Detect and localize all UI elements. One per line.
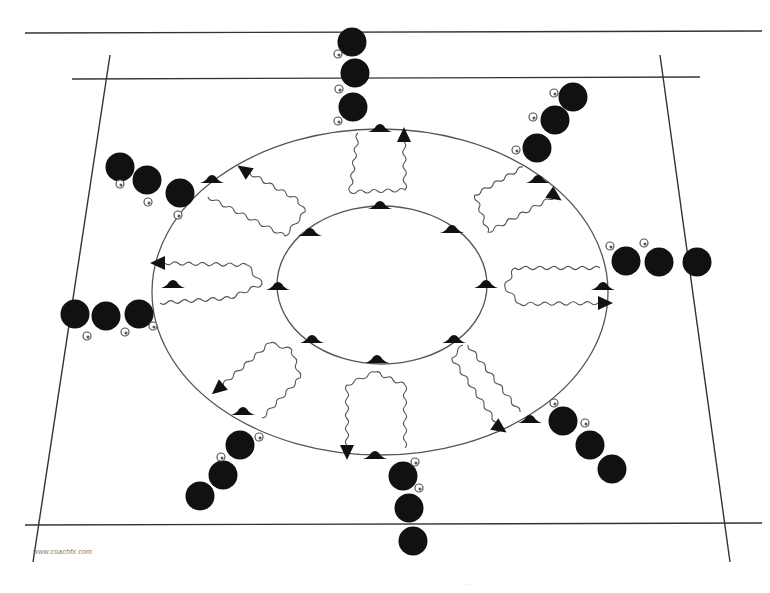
dribble-line [208,170,305,236]
ball-icon [550,399,558,407]
player-group-east [606,239,712,277]
ball-icon [335,85,343,93]
dribble-line [505,266,605,305]
pitch-canvas [0,0,770,593]
ball-icon [550,89,558,97]
top-outer-line [25,31,762,33]
ball-icon [217,453,225,461]
top-inner-line [72,77,700,79]
cone-icon [300,335,324,343]
south-west-path [207,342,300,418]
ball-icon [83,332,91,340]
cones [161,124,615,459]
ball-icon [529,113,537,121]
player-group-north-east [512,83,588,163]
player-icon [133,166,162,195]
right-sideline [660,55,730,562]
ball-icon [116,180,124,188]
player-group-north-west [106,153,195,220]
north-east-path [474,167,565,232]
player-icon [549,407,578,436]
player-icon [395,494,424,523]
bottom-line [25,523,762,525]
player-group-south [389,458,428,556]
ball-icon [512,146,520,154]
ball-icon [334,50,342,58]
ball-icon [144,198,152,206]
player-icon [92,302,121,331]
player-group-west [61,300,158,341]
player-icon [399,527,428,556]
dribble-line [474,167,555,232]
ball-icon [606,242,614,250]
cone-icon [591,282,615,290]
cone-icon [440,225,464,233]
north-path [349,127,411,194]
ball-icon [149,322,157,330]
arrowhead-icon [207,379,227,399]
west-path [150,256,262,304]
north-west-path [208,160,305,236]
player-icon [166,179,195,208]
ball-icon [121,328,129,336]
dribble-line [349,133,407,194]
arrowhead-icon [233,160,253,180]
ball-icon [255,433,263,441]
player-icon [186,482,215,511]
cone-icon [518,415,542,423]
cone-icon [365,355,389,363]
player-group-north [334,28,370,126]
dribble-line [468,345,520,412]
player-group-south-west [186,431,264,511]
arrowhead-icon [598,296,613,310]
footer-mark: ... [465,580,469,586]
player-icon [226,431,255,460]
cone-icon [526,175,550,183]
cone-icon [474,280,498,288]
cone-icon [298,228,322,236]
cone-icon [231,407,255,415]
ball-icon [411,458,419,466]
player-icon [341,59,370,88]
dribble-line [452,345,500,428]
cone-icon [368,201,392,209]
player-icon [576,431,605,460]
player-icon [559,83,588,112]
player-icon [339,93,368,122]
south-path [340,372,407,460]
player-icon [645,248,674,277]
player-groups [61,28,712,556]
player-group-south-east [549,399,627,484]
player-icon [598,455,627,484]
dribble-line [345,372,406,452]
player-icon [683,248,712,277]
player-icon [523,134,552,163]
south-east-path [452,345,520,438]
arrowhead-icon [545,186,565,206]
ball-icon [415,484,423,492]
dribble-line [218,342,301,418]
drill-diagram: www.coachfx.com ... [0,0,770,593]
player-icon [61,300,90,329]
ball-icon [581,419,589,427]
ball-icon [334,117,342,125]
watermark-text: www.coachfx.com [33,548,92,555]
cone-icon [161,280,185,288]
ball-icon [174,211,182,219]
player-icon [106,153,135,182]
ball-icon [640,239,648,247]
player-icon [612,247,641,276]
player-icon [209,461,238,490]
player-icon [541,106,570,135]
cone-icon [266,282,290,290]
cone-icon [368,124,392,132]
